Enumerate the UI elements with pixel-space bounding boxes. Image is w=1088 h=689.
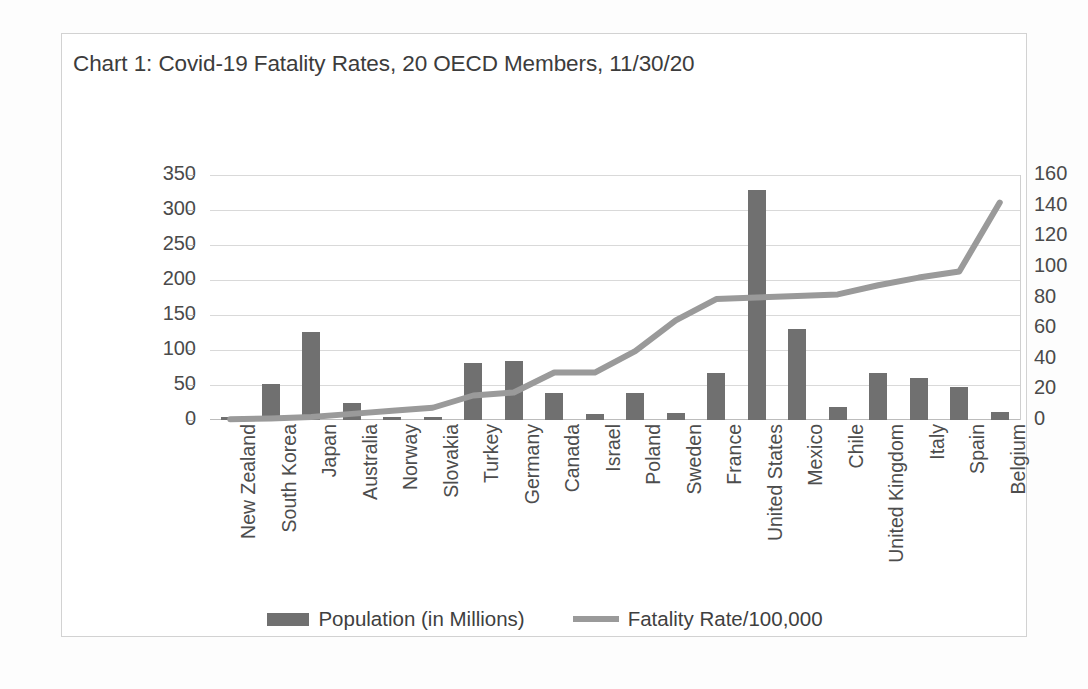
right-axis-tick-label: 140 bbox=[1034, 193, 1067, 216]
right-axis-tick-label: 20 bbox=[1034, 376, 1056, 399]
chart-legend: Population (in Millions)Fatality Rate/10… bbox=[62, 599, 1028, 639]
left-value-axis: 050100150200250300350 bbox=[128, 175, 196, 420]
left-axis-tickmark bbox=[188, 420, 194, 421]
legend-item[interactable]: Fatality Rate/100,000 bbox=[573, 607, 823, 631]
category-label: Norway bbox=[399, 424, 422, 490]
left-axis-tickmark bbox=[188, 315, 194, 316]
category-label: France bbox=[723, 424, 746, 485]
category-label: Slovakia bbox=[440, 424, 463, 498]
right-axis-tick-label: 0 bbox=[1034, 407, 1045, 430]
left-axis-tick-label: 150 bbox=[144, 302, 196, 325]
legend-item[interactable]: Population (in Millions) bbox=[267, 607, 524, 631]
right-value-axis: 020406080100120140160 bbox=[1034, 175, 1088, 420]
category-label: Belgium bbox=[1007, 424, 1030, 494]
category-axis-labels: New ZealandSouth KoreaJapanAustraliaNorw… bbox=[210, 424, 1020, 599]
category-label: South Korea bbox=[278, 424, 301, 532]
category-label: Japan bbox=[318, 424, 341, 477]
plot-inner bbox=[210, 175, 1020, 420]
scanned-page-background: Chart 1: Covid-19 Fatality Rates, 20 OEC… bbox=[0, 0, 1088, 689]
left-axis-tickmark bbox=[188, 175, 194, 176]
right-axis-tick-label: 120 bbox=[1034, 223, 1067, 246]
right-axis-tick-label: 60 bbox=[1034, 315, 1056, 338]
category-label: New Zealand bbox=[237, 424, 260, 539]
category-label: Canada bbox=[561, 424, 584, 492]
line-swatch-icon bbox=[573, 616, 619, 622]
left-axis-tickmark bbox=[188, 280, 194, 281]
chart-title: Chart 1: Covid-19 Fatality Rates, 20 OEC… bbox=[73, 51, 694, 77]
left-axis-tick-label: 200 bbox=[144, 267, 196, 290]
category-label: Germany bbox=[521, 424, 544, 504]
category-label: Italy bbox=[926, 424, 949, 460]
left-axis-tickmark bbox=[188, 350, 194, 351]
category-label: Spain bbox=[966, 424, 989, 474]
category-label: Sweden bbox=[683, 424, 706, 494]
category-label: Israel bbox=[602, 424, 625, 472]
bar-swatch-icon bbox=[267, 613, 309, 626]
line-path bbox=[230, 203, 1000, 420]
right-axis-tick-label: 80 bbox=[1034, 285, 1056, 308]
left-axis-tick-label: 350 bbox=[144, 162, 196, 185]
left-axis-tickmark bbox=[188, 385, 194, 386]
category-label: Australia bbox=[359, 424, 382, 500]
left-axis-tick-label: 0 bbox=[144, 407, 196, 430]
left-axis-tick-label: 100 bbox=[144, 337, 196, 360]
fatality-rate-line bbox=[210, 175, 1020, 420]
right-axis-tick-label: 100 bbox=[1034, 254, 1067, 277]
left-axis-tick-label: 300 bbox=[144, 197, 196, 220]
legend-label: Population (in Millions) bbox=[318, 607, 524, 631]
right-axis-line bbox=[1020, 175, 1021, 420]
left-axis-tickmark bbox=[188, 210, 194, 211]
category-label: Mexico bbox=[804, 424, 827, 486]
category-label: Chile bbox=[845, 424, 868, 468]
category-label: Poland bbox=[642, 424, 665, 485]
left-axis-tick-label: 50 bbox=[144, 372, 196, 395]
left-axis-tickmark bbox=[188, 245, 194, 246]
legend-label: Fatality Rate/100,000 bbox=[628, 607, 823, 631]
plot-area bbox=[210, 175, 1020, 420]
category-label: United States bbox=[764, 424, 787, 541]
category-label: United Kingdom bbox=[885, 424, 908, 563]
left-axis-tick-label: 250 bbox=[144, 232, 196, 255]
right-axis-tick-label: 160 bbox=[1034, 162, 1067, 185]
chart-container: Chart 1: Covid-19 Fatality Rates, 20 OEC… bbox=[61, 33, 1027, 637]
right-axis-tick-label: 40 bbox=[1034, 346, 1056, 369]
category-label: Turkey bbox=[480, 424, 503, 483]
